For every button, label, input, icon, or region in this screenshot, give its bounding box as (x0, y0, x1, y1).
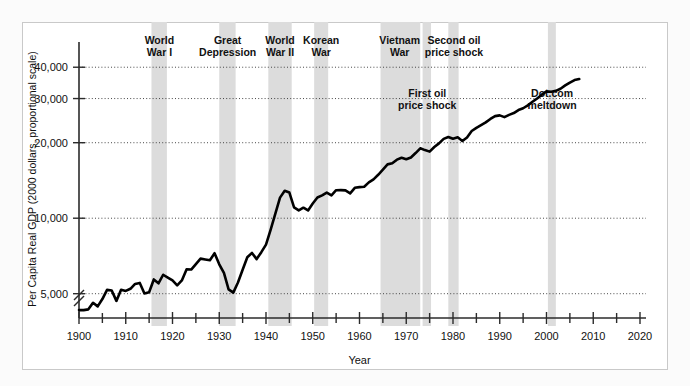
event-annotation-line: Great (214, 34, 242, 46)
y-tick-label: 5,000 (40, 288, 68, 300)
figure-root: 5,00010,00020,00030,00040,00019001910192… (0, 0, 690, 386)
event-annotation-line: price shock (425, 46, 484, 58)
event-annotation: WorldWar I (145, 34, 175, 58)
y-tick-label: 10,000 (34, 212, 68, 224)
event-annotation-line: War I (147, 46, 172, 58)
event-annotation-line: War (311, 46, 330, 58)
x-tick-label: 1920 (160, 330, 184, 342)
x-tick-label: 2010 (581, 330, 605, 342)
event-annotation-line: War (390, 46, 409, 58)
x-tick-label: 2020 (628, 330, 652, 342)
x-tick-label: 1980 (441, 330, 465, 342)
x-tick-label: 1910 (114, 330, 138, 342)
event-annotation-line: price shock (398, 99, 457, 111)
x-tick-label: 1950 (301, 330, 325, 342)
event-annotation-line: First oil (408, 87, 446, 99)
y-tick-label: 20,000 (34, 137, 68, 149)
chart-canvas: 5,00010,00020,00030,00040,00019001910192… (0, 0, 690, 386)
x-tick-label: 1960 (347, 330, 371, 342)
x-tick-label: 1900 (67, 330, 91, 342)
y-tick-label: 40,000 (34, 61, 68, 73)
x-tick-label: 2000 (534, 330, 558, 342)
event-band (548, 22, 556, 326)
x-tick-label: 1930 (207, 330, 231, 342)
y-axis-title: Per Capita Real GDP (2000 dollars, propo… (26, 51, 38, 306)
event-annotation-line: Depression (199, 46, 256, 58)
x-axis-title: Year (348, 354, 371, 366)
event-annotation-line: World (145, 34, 175, 46)
event-annotation-line: Second oil (427, 34, 480, 46)
x-tick-label: 1970 (394, 330, 418, 342)
event-annotation-line: Korean (303, 34, 339, 46)
y-tick-label: 30,000 (34, 93, 68, 105)
event-annotation: GreatDepression (199, 34, 256, 58)
x-tick-label: 1940 (254, 330, 278, 342)
event-annotation: WorldWar II (265, 34, 295, 58)
event-annotation-line: World (265, 34, 295, 46)
event-band (423, 22, 431, 326)
event-annotation: KoreanWar (303, 34, 339, 58)
event-annotation-line: Vietnam (379, 34, 420, 46)
gdp-line-chart: 5,00010,00020,00030,00040,00019001910192… (0, 0, 690, 386)
x-tick-label: 1990 (488, 330, 512, 342)
event-annotation: Second oilprice shock (425, 34, 484, 58)
event-annotation-line: War II (266, 46, 294, 58)
